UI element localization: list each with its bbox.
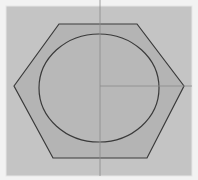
cad-drawing bbox=[0, 0, 198, 180]
ellipse-shape[interactable] bbox=[39, 34, 159, 142]
drawing-viewport bbox=[0, 0, 198, 180]
